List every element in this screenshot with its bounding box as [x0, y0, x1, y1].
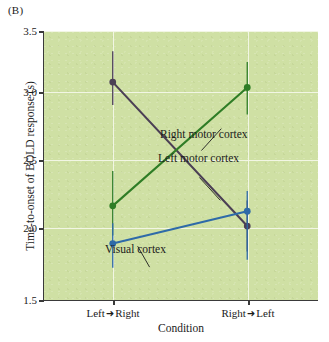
xtick-left-right-to: Right: [115, 307, 139, 319]
plot-area: 3.5 3.0 2.5 2.0 1.5 Left➜Right Right➜Lef…: [43, 31, 318, 301]
xtick-left-right-from: Left: [86, 307, 104, 319]
panel-label: (B): [8, 4, 23, 16]
figure-panel-b: (B) 3.5 3.0 2.5 2.0 1.5 Left➜Right Right…: [0, 0, 329, 342]
annotation-visual-cortex: Visual cortex: [105, 243, 166, 255]
xtick-right-left-to: Left: [256, 307, 274, 319]
annotation-right-motor-cortex: Right motor cortex: [160, 128, 248, 140]
xtick-right-left-from: Right: [221, 307, 245, 319]
leader-line-left-motor: [199, 177, 220, 200]
x-axis-title: Condition: [158, 322, 204, 334]
xtick-label-right-left: Right➜Left: [221, 307, 274, 319]
y-axis-title: Time-to-onset of BOLD response (s): [24, 81, 36, 251]
xtick-label-left-right: Left➜Right: [86, 307, 139, 319]
ytick-label-3.5: 3.5: [23, 25, 37, 37]
arrow-right-icon: ➜: [246, 308, 256, 319]
arrow-right-icon: ➜: [105, 308, 115, 319]
annotation-leader-lines: [44, 31, 318, 300]
xtick-mark-right-left: [248, 300, 250, 305]
ytick-label-1.5: 1.5: [23, 294, 37, 306]
annotation-left-motor-cortex: Left motor cortex: [158, 152, 239, 164]
xtick-mark-left-right: [113, 300, 115, 305]
ytick-mark-1.5: [39, 300, 44, 302]
